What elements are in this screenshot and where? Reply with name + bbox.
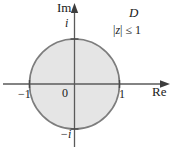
region-condition-label: |z| ≤ 1 [113, 24, 141, 36]
real-axis-label: Re [152, 85, 166, 98]
tick-label-minus-i: −i [60, 128, 71, 140]
origin-label: 0 [62, 87, 68, 99]
imaginary-axis-arrowhead [71, 3, 78, 13]
tick-label-i: i [65, 17, 68, 29]
imaginary-axis-label: Im [57, 1, 71, 14]
region-name-label: D [129, 6, 138, 19]
tick-label-one: 1 [119, 88, 125, 100]
figure-canvas [0, 0, 177, 151]
condition-bar-close: | ≤ 1 [120, 23, 141, 37]
complex-plane-figure: Im Re i −i −1 1 0 D |z| ≤ 1 [0, 0, 177, 151]
tick-label-minus-one: −1 [18, 88, 31, 100]
